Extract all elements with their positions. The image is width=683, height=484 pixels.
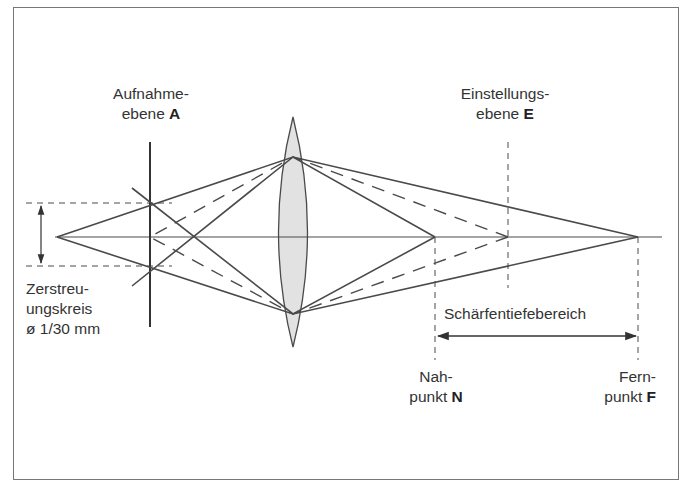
rays-near-point <box>57 157 435 314</box>
rays-far-point <box>132 157 638 314</box>
rays-focus-plane <box>150 157 508 314</box>
label-near-point: Nah- punkt N <box>398 367 474 407</box>
label-focus-plane: Einstellungs- ebene E <box>440 84 570 124</box>
optics-diagram <box>0 0 683 484</box>
label-far-point: Fern- punkt F <box>580 367 656 407</box>
label-depth-of-field-range: Schärfentiefebereich <box>444 304 586 324</box>
label-circle-of-confusion: Zerstreu- ungskreis ø 1/30 mm <box>26 279 100 339</box>
label-recording-plane: Aufnahme- ebene A <box>96 84 206 124</box>
